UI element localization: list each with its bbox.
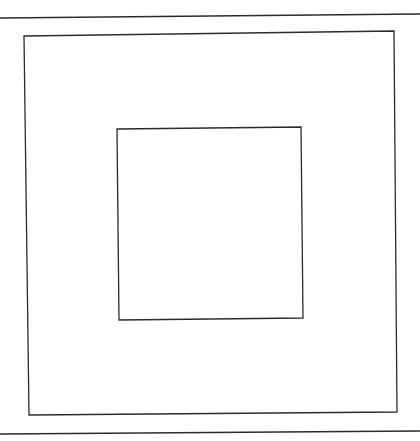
inner-square — [117, 127, 303, 320]
diagram-canvas — [0, 0, 420, 441]
top-rule-line — [0, 14, 420, 18]
outer-square — [24, 31, 397, 415]
bottom-rule-line — [0, 431, 420, 434]
